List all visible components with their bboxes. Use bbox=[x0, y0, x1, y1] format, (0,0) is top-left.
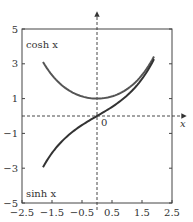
svg-text:5: 5 bbox=[12, 24, 18, 35]
chart: −2.5−1.5−0.50.51.52.5−5−3−1135 cosh x si… bbox=[0, 0, 193, 222]
svg-text:−0.5: −0.5 bbox=[70, 207, 94, 218]
svg-text:−1: −1 bbox=[3, 128, 18, 139]
svg-text:3: 3 bbox=[12, 58, 18, 69]
svg-text:−5: −5 bbox=[3, 198, 18, 209]
sinh-label: sinh x bbox=[26, 188, 56, 199]
x-axis-label: x bbox=[180, 118, 186, 129]
sinh-curve bbox=[43, 59, 154, 167]
svg-text:1.5: 1.5 bbox=[134, 207, 150, 218]
svg-text:−1.5: −1.5 bbox=[40, 207, 64, 218]
svg-text:0.5: 0.5 bbox=[104, 207, 120, 218]
svg-text:−2.5: −2.5 bbox=[10, 207, 34, 218]
cosh-label: cosh x bbox=[26, 39, 58, 50]
svg-text:1: 1 bbox=[12, 93, 18, 104]
svg-text:2.5: 2.5 bbox=[164, 207, 180, 218]
cosh-curve bbox=[43, 57, 154, 99]
svg-text:−3: −3 bbox=[3, 163, 18, 174]
origin-label: 0 bbox=[101, 117, 107, 128]
